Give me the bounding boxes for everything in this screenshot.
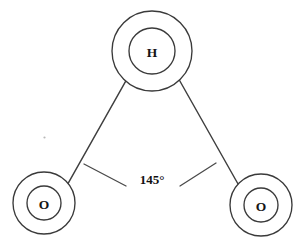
- molecule-diagram-svg: 145° H O O: [0, 0, 302, 241]
- molecule-diagram-canvas: 145° H O O: [0, 0, 302, 241]
- stray-speck-artifact: [43, 136, 45, 138]
- bond-angle-label: 145°: [140, 172, 165, 187]
- atom-label-hydrogen: H: [147, 45, 158, 60]
- bond-line-h-to-oxygen-right: [179, 80, 238, 185]
- atom-label-oxygen-left: O: [39, 197, 50, 212]
- atom-hydrogen-top: H: [112, 11, 192, 91]
- angle-marker-right-arm: [180, 163, 216, 186]
- atom-label-oxygen-right: O: [256, 199, 267, 214]
- atom-oxygen-right: O: [230, 174, 292, 236]
- bond-line-h-to-oxygen-left: [68, 81, 126, 183]
- angle-marker-left-arm: [84, 164, 126, 186]
- atom-oxygen-left: O: [13, 172, 75, 234]
